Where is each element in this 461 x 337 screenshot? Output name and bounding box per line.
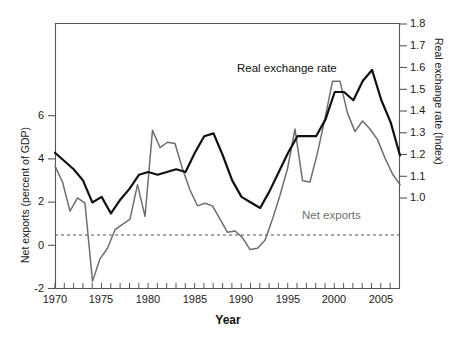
series-label-real-exchange-rate: Real exchange rate [237,62,337,74]
series-line-real-exchange-rate [55,70,400,214]
left-axis-title: Net exports (percent of GDP) [19,127,31,263]
left-tick-label-minus-2: -2 [22,283,44,294]
x-tick-label-1985: 1985 [175,294,215,305]
right-tick-label-1-2: 1.2 [410,149,425,160]
right-tick-label-1-3: 1.3 [410,127,425,138]
right-tick-label-1-1: 1.1 [410,171,425,182]
x-tick-label-1970: 1970 [35,294,75,305]
x-tick-label-2000: 2000 [314,294,354,305]
x-tick-label-1980: 1980 [128,294,168,305]
series-line-net-exports [55,81,400,281]
x-tick-label-1975: 1975 [81,294,121,305]
x-tick-label-2005: 2005 [361,294,401,305]
right-tick-label-1-5: 1.5 [410,84,425,95]
x-axis-title: Year [178,313,278,327]
right-tick-label-1-0: 1.0 [410,192,425,203]
right-tick-label-1-7: 1.7 [410,40,425,51]
series-label-net-exports: Net exports [302,209,361,221]
left-axis-ticks [48,116,55,289]
right-tick-label-1-6: 1.6 [410,62,425,73]
x-axis-ticks [55,283,400,288]
left-tick-label-6: 6 [26,110,44,121]
x-tick-label-1990: 1990 [221,294,261,305]
right-axis-title: Real exchange rate (Index) [433,38,445,165]
right-axis-ticks [400,24,407,198]
chart-figure: 6 4 2 0 -2 1.8 1.7 1.6 1.5 1.4 1.3 1.2 1… [0,0,461,337]
x-tick-label-1995: 1995 [268,294,308,305]
chart-plot-area [0,0,461,337]
right-tick-label-1-8: 1.8 [410,18,425,29]
right-tick-label-1-4: 1.4 [410,105,425,116]
